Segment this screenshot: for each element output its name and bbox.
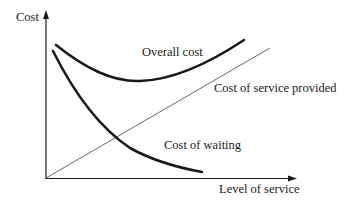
cost-level-of-service-diagram: Cost Level of service Overall cost Cost … — [0, 0, 350, 200]
x-axis — [46, 176, 297, 182]
cost-of-waiting-curve — [53, 51, 202, 172]
x-axis-arrow-icon — [288, 176, 297, 182]
cost-of-service-line — [46, 48, 270, 178]
overall-cost-label: Overall cost — [142, 46, 203, 59]
y-axis — [43, 10, 49, 179]
x-axis-label: Level of service — [219, 183, 300, 196]
cost-of-service-label: Cost of service provided — [214, 82, 337, 95]
diagram-canvas — [0, 0, 350, 200]
cost-of-waiting-label: Cost of waiting — [164, 139, 241, 152]
y-axis-arrow-icon — [43, 10, 49, 19]
y-axis-label: Cost — [16, 11, 39, 24]
